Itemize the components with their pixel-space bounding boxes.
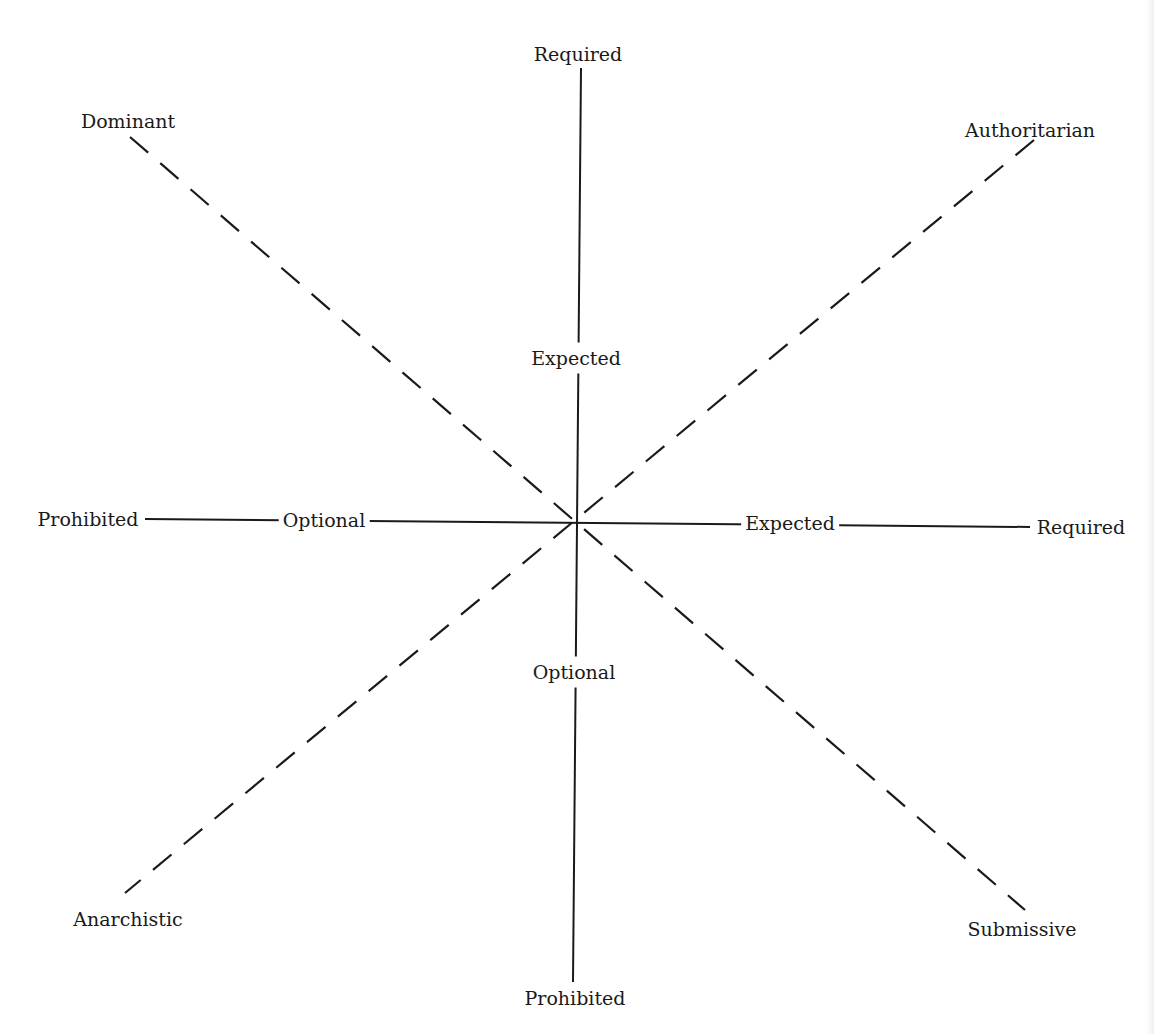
horizontal-right-label: Required [1037, 518, 1126, 537]
authoritarian-label: Authoritarian [965, 121, 1095, 140]
vertical-upper-mid-label: Expected [529, 343, 623, 374]
vertical-axis-line [573, 68, 581, 982]
horizontal-right-mid-label: Expected [741, 514, 839, 533]
vertical-lower-mid-label: Optional [531, 657, 618, 688]
submissive-label: Submissive [967, 920, 1076, 939]
vertical-bottom-label: Prohibited [525, 989, 626, 1008]
axis-diagram: Required Expected Optional Prohibited Pr… [0, 0, 1154, 1034]
vertical-top-label: Required [534, 45, 623, 64]
anarchistic-label: Anarchistic [73, 910, 182, 929]
dominant-label: Dominant [81, 112, 175, 131]
diagram-lines [0, 0, 1154, 1034]
scan-edge-shadow [1146, 0, 1154, 1034]
horizontal-left-mid-label: Optional [279, 511, 370, 530]
horizontal-left-label: Prohibited [38, 510, 139, 529]
